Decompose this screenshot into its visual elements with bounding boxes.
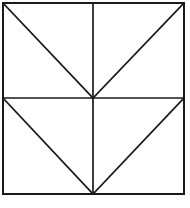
geometric-figure-canvas [0, 0, 190, 208]
